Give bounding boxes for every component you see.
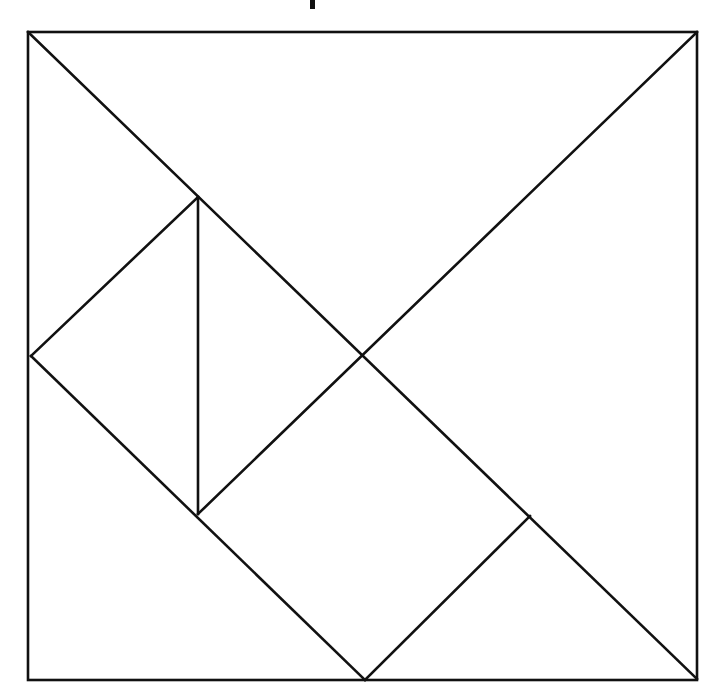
anti-diagonal-upper-line [198,32,697,514]
figure-canvas [0,0,725,699]
upper-left-edge-line [31,197,198,356]
tangram-diagram [0,0,725,699]
bottom-right-edge-line [365,516,530,680]
